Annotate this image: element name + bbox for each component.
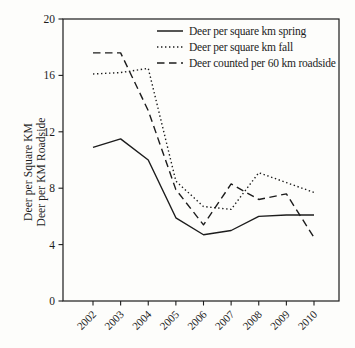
y-axis-label-line-2: Deer per KM Roadside <box>35 32 48 312</box>
x-tick-label: 2009 <box>268 308 292 332</box>
legend-item-roadside: Deer counted per 60 km roadside <box>157 55 336 71</box>
dotted-line-swatch-icon <box>157 45 183 49</box>
x-tick-label: 2005 <box>157 308 181 332</box>
solid-line-swatch-icon <box>157 29 183 33</box>
y-tick-label: 4 <box>49 239 55 251</box>
series-line-dashed <box>93 53 314 238</box>
x-tick-label: 2002 <box>74 308 98 332</box>
legend-label-roadside: Deer counted per 60 km roadside <box>189 57 336 69</box>
legend: Deer per square km spring Deer per squar… <box>157 23 336 71</box>
legend-item-spring: Deer per square km spring <box>157 23 336 39</box>
series-line-solid <box>93 139 314 235</box>
y-tick-label: 20 <box>44 13 56 25</box>
y-axis-label-line-1: Deer per Square KM <box>22 32 35 312</box>
series-line-dotted <box>93 68 314 209</box>
x-tick-label: 2006 <box>185 308 209 332</box>
x-tick-label: 2003 <box>102 308 126 332</box>
y-tick-label: 0 <box>49 295 55 307</box>
x-tick-label: 2007 <box>212 308 236 332</box>
dashed-line-swatch-icon <box>157 61 183 65</box>
y-axis-label: Deer per Square KM Deer per KM Roadside <box>22 32 48 312</box>
x-tick-label: 2004 <box>130 308 154 332</box>
y-tick-label: 8 <box>49 182 55 194</box>
legend-label-spring: Deer per square km spring <box>189 25 306 37</box>
legend-label-fall: Deer per square km fall <box>189 41 293 53</box>
x-tick-label: 2008 <box>240 308 264 332</box>
x-tick-label: 2010 <box>295 308 319 332</box>
legend-item-fall: Deer per square km fall <box>157 39 336 55</box>
deer-population-chart: 0481216202002200320042005200620072008200… <box>0 0 355 348</box>
